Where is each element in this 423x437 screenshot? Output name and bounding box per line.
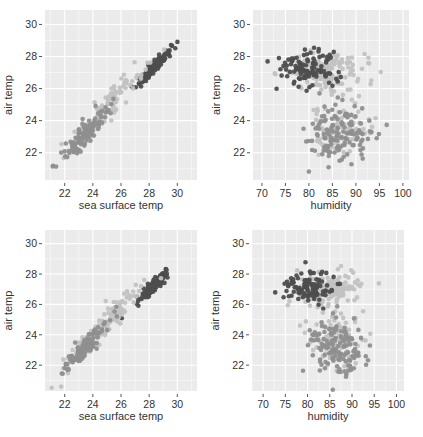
data-point-dark	[312, 45, 317, 50]
data-point-medium	[368, 129, 373, 134]
data-point-medium	[331, 388, 336, 393]
data-point-medium	[88, 348, 93, 353]
y-tick-label: 30	[25, 237, 37, 249]
data-point-light	[350, 285, 355, 290]
data-point-light	[139, 76, 144, 81]
data-point-medium	[354, 137, 359, 142]
data-point-medium	[87, 339, 92, 344]
data-point-medium	[307, 328, 312, 333]
data-point-medium	[358, 148, 363, 153]
data-point-medium	[109, 102, 114, 107]
data-point-light2	[314, 322, 319, 327]
data-point-light	[341, 93, 346, 98]
data-point-light	[305, 80, 310, 85]
data-point-dark	[301, 295, 306, 300]
data-point-medium	[311, 353, 316, 358]
data-point-light	[356, 77, 361, 82]
data-point-medium	[364, 362, 369, 367]
data-point-medium	[83, 123, 88, 128]
data-point-medium	[342, 369, 347, 374]
data-point-dark	[146, 283, 151, 288]
data-point-light	[350, 55, 355, 60]
data-point-light	[124, 81, 129, 86]
data-point-dark	[149, 288, 154, 293]
y-tick-label: 28	[233, 50, 245, 62]
x-tick-label: 80	[303, 187, 315, 199]
data-point-light2	[356, 109, 361, 114]
data-point-light2	[303, 331, 308, 336]
data-point-dark	[139, 84, 144, 89]
x-tick-label: 24	[87, 187, 99, 199]
data-point-light2	[368, 331, 373, 336]
data-point-medium	[323, 118, 328, 123]
data-point-dark	[308, 291, 313, 296]
x-tick-label: 80	[302, 398, 314, 410]
data-point-light	[339, 264, 344, 269]
data-point-light	[349, 268, 354, 273]
data-point-medium	[349, 119, 354, 124]
data-point-dark	[277, 56, 282, 61]
data-point-medium	[80, 117, 85, 122]
x-tick-label: 28	[143, 187, 155, 199]
data-point-dark	[299, 271, 304, 276]
data-point-medium	[331, 129, 336, 134]
data-point-light	[114, 300, 119, 305]
data-point-medium	[326, 345, 331, 350]
data-point-medium	[353, 114, 358, 119]
data-point-medium	[330, 107, 335, 112]
data-point-medium	[331, 358, 336, 363]
data-point-dark	[324, 60, 329, 65]
data-point-medium	[65, 155, 70, 160]
data-point-medium	[336, 344, 341, 349]
data-point-medium	[351, 143, 356, 148]
data-point-light	[119, 76, 124, 81]
data-point-dark	[147, 67, 152, 72]
data-point-light	[295, 268, 300, 273]
data-point-light	[346, 65, 351, 70]
data-point-dark	[164, 267, 169, 272]
data-point-medium	[344, 136, 349, 141]
data-point-medium	[346, 363, 351, 368]
data-point-dark	[296, 297, 301, 302]
data-point-dark	[327, 81, 332, 86]
data-point-medium	[322, 330, 327, 335]
data-point-light	[124, 100, 129, 105]
x-tick-label: 100	[394, 187, 412, 199]
data-point-light	[340, 57, 345, 62]
data-point-dark	[288, 70, 293, 75]
data-point-dark	[331, 275, 336, 280]
data-point-medium	[339, 329, 344, 334]
data-point-light	[132, 60, 137, 65]
data-point-light	[323, 85, 328, 90]
y-tick-label: 26	[232, 298, 244, 310]
data-point-medium	[377, 132, 382, 137]
data-point-light	[119, 90, 124, 95]
data-point-light	[127, 297, 132, 302]
data-point-dark	[273, 290, 278, 295]
data-point-dark	[316, 303, 321, 308]
data-point-medium	[323, 136, 328, 141]
data-point-light	[339, 292, 344, 297]
data-point-light	[330, 66, 335, 71]
data-point-medium	[349, 131, 354, 136]
data-point-dark	[165, 275, 170, 280]
data-point-medium	[337, 159, 342, 164]
data-point-medium	[78, 354, 83, 359]
data-point-light	[159, 276, 164, 281]
data-point-medium	[311, 121, 316, 126]
data-point-light	[122, 72, 127, 77]
data-point-dark	[304, 88, 309, 93]
y-tick-label: 30	[232, 237, 244, 249]
data-point-dark	[310, 83, 315, 88]
data-point-medium	[98, 114, 103, 119]
data-point-medium	[346, 113, 351, 118]
data-point-light	[148, 60, 153, 65]
data-point-medium	[353, 342, 358, 347]
data-point-light	[334, 300, 339, 305]
data-point-medium	[335, 117, 340, 122]
y-tick-label: 26	[25, 298, 37, 310]
data-point-medium	[79, 141, 84, 146]
panel-bottom-right: 7075808590951002224262830humidityair tem…	[209, 228, 408, 422]
data-point-medium	[313, 149, 318, 154]
data-point-medium	[358, 143, 363, 148]
